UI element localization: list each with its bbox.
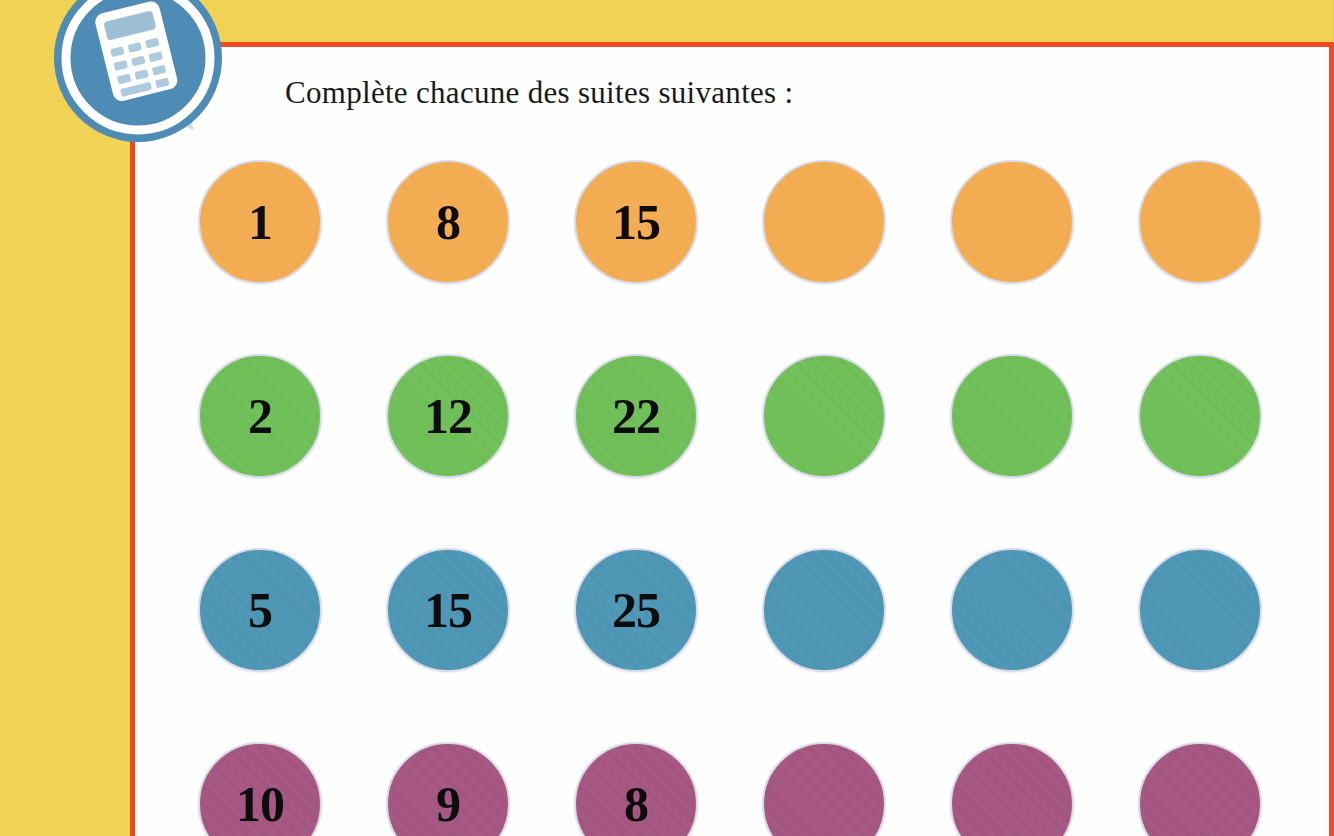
- circle-shape: [762, 354, 886, 478]
- sequence-row-orange: 1815: [198, 160, 1328, 354]
- circle-shape: [950, 548, 1074, 672]
- sequence-circle-empty[interactable]: [762, 548, 886, 672]
- sequence-circle-filled[interactable]: 15: [574, 160, 698, 284]
- sequence-circle-empty[interactable]: [1138, 354, 1262, 478]
- circle-shape: [762, 160, 886, 284]
- circle-value: 25: [612, 585, 660, 635]
- sequence-circle-filled[interactable]: 10: [198, 742, 322, 836]
- sequence-row-green: 21222: [198, 354, 1328, 548]
- circle-shape: [1138, 160, 1262, 284]
- circle-value: 1: [248, 197, 272, 247]
- circle-shape: 15: [386, 548, 510, 672]
- sequence-circle-empty[interactable]: [1138, 548, 1262, 672]
- circle-shape: 9: [386, 742, 510, 836]
- sequence-circle-filled[interactable]: 22: [574, 354, 698, 478]
- circle-value: 2: [248, 391, 272, 441]
- circle-shape: [1138, 354, 1262, 478]
- exercise-card: Complète chacune des suites suivantes : …: [130, 42, 1334, 836]
- circle-shape: 8: [574, 742, 698, 836]
- sequence-circle-empty[interactable]: [762, 160, 886, 284]
- circle-shape: [950, 160, 1074, 284]
- sequence-circle-empty[interactable]: [1138, 160, 1262, 284]
- sequence-circle-filled[interactable]: 12: [386, 354, 510, 478]
- circle-shape: [1138, 742, 1262, 836]
- sequence-circle-empty[interactable]: [1138, 742, 1262, 836]
- sequence-circle-empty[interactable]: [950, 354, 1074, 478]
- sequence-circle-filled[interactable]: 9: [386, 742, 510, 836]
- circle-shape: [762, 742, 886, 836]
- sequence-circle-filled[interactable]: 8: [386, 160, 510, 284]
- circle-value: 15: [424, 585, 472, 635]
- circle-value: 5: [248, 585, 272, 635]
- sequence-circle-filled[interactable]: 8: [574, 742, 698, 836]
- circle-shape: 5: [198, 548, 322, 672]
- calculator-badge[interactable]: [52, 0, 224, 144]
- circle-shape: [762, 548, 886, 672]
- sequence-row-purple: 1098: [198, 742, 1328, 836]
- circle-shape: 1: [198, 160, 322, 284]
- circle-shape: 22: [574, 354, 698, 478]
- sequence-circle-filled[interactable]: 25: [574, 548, 698, 672]
- sequence-circle-filled[interactable]: 2: [198, 354, 322, 478]
- circle-shape: 12: [386, 354, 510, 478]
- sequence-circle-filled[interactable]: 1: [198, 160, 322, 284]
- sequence-grid: 181521222515251098: [198, 160, 1328, 836]
- circle-value: 8: [624, 779, 648, 829]
- circle-shape: 15: [574, 160, 698, 284]
- circle-shape: [950, 742, 1074, 836]
- circle-shape: 25: [574, 548, 698, 672]
- sequence-circle-filled[interactable]: 15: [386, 548, 510, 672]
- sequence-circle-filled[interactable]: 5: [198, 548, 322, 672]
- circle-value: 12: [424, 391, 472, 441]
- card-inner-surface: Complète chacune des suites suivantes : …: [135, 47, 1329, 836]
- circle-shape: 2: [198, 354, 322, 478]
- circle-value: 15: [612, 197, 660, 247]
- sequence-circle-empty[interactable]: [950, 548, 1074, 672]
- circle-shape: [950, 354, 1074, 478]
- circle-shape: 8: [386, 160, 510, 284]
- circle-value: 9: [436, 779, 460, 829]
- sequence-circle-empty[interactable]: [762, 354, 886, 478]
- circle-shape: [1138, 548, 1262, 672]
- circle-value: 10: [236, 779, 284, 829]
- sequence-circle-empty[interactable]: [950, 160, 1074, 284]
- sequence-circle-empty[interactable]: [950, 742, 1074, 836]
- sequence-row-blue: 51525: [198, 548, 1328, 742]
- circle-value: 22: [612, 391, 660, 441]
- instruction-text: Complète chacune des suites suivantes :: [285, 75, 793, 111]
- circle-value: 8: [436, 197, 460, 247]
- sequence-circle-empty[interactable]: [762, 742, 886, 836]
- circle-shape: 10: [198, 742, 322, 836]
